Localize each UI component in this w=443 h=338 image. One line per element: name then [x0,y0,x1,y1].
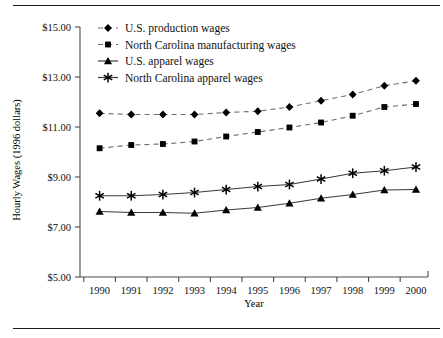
x-tick-label: 1991 [121,285,142,296]
marker-diamond [380,82,388,90]
x-axis-title: Year [244,298,264,309]
x-tick-label: 1997 [311,285,332,296]
y-tick-label: $13.00 [42,72,71,83]
marker-square [255,129,261,135]
x-tick-label: 1998 [342,285,363,296]
x-tick-label: 2000 [405,285,426,296]
x-tick-label: 1996 [279,285,300,296]
marker-square [413,101,419,107]
y-tick-labels: $5.00$7.00$9.00$11.00$13.00$15.00 [42,22,71,283]
y-tick-label: $5.00 [47,272,71,283]
marker-diamond [317,97,325,105]
series-lines [100,81,416,214]
marker-diamond [127,111,135,119]
legend-entry: U.S. production wages [98,22,230,35]
legend-label: North Carolina manufacturing wages [125,39,296,52]
legend-label: North Carolina apparel wages [125,72,263,85]
marker-diamond [412,77,420,85]
y-axis-title: Hourly Wages (1996 dollars) [11,99,23,221]
x-tick-label: 1995 [247,285,268,296]
legend-entry: U.S. apparel wages [98,55,214,68]
x-tick-marks [84,277,400,282]
marker-diamond [222,109,230,117]
marker-diamond [349,91,357,99]
marker-square [381,104,387,110]
chart-plot-area: $5.00$7.00$9.00$11.00$13.00$15.00 199019… [0,0,443,338]
marker-square-legend [105,42,111,48]
marker-square [192,139,198,145]
y-tick-label: $11.00 [43,122,72,133]
legend-entry: North Carolina manufacturing wages [98,39,296,52]
series-line [100,167,416,196]
legend-entry: North Carolina apparel wages [98,72,263,85]
marker-diamond [254,107,262,115]
x-tick-label: 1990 [89,285,110,296]
marker-diamond-legend [104,24,112,32]
x-tick-label: 1993 [184,285,205,296]
marker-square [223,134,229,140]
marker-square [160,141,166,147]
marker-square [287,125,293,131]
y-tick-label: $9.00 [47,172,71,183]
marker-diamond [286,103,294,111]
x-tick-label: 1994 [216,285,238,296]
chart-legend: U.S. production wagesNorth Carolina manu… [98,22,296,85]
marker-diamond [96,109,104,117]
legend-label: U.S. apparel wages [125,55,214,68]
marker-square [97,145,103,151]
x-tick-label: 1992 [152,285,173,296]
marker-square [350,113,356,119]
marker-diamond [191,111,199,119]
marker-square [318,120,324,126]
x-tick-label: 1999 [374,285,395,296]
legend-label: U.S. production wages [125,22,230,35]
x-tick-labels: 1990199119921993199419951996199719981999… [89,285,426,296]
marker-diamond [159,111,167,119]
y-tick-marks [75,27,80,277]
wage-chart-figure: $5.00$7.00$9.00$11.00$13.00$15.00 199019… [0,0,443,338]
y-tick-label: $15.00 [42,22,71,33]
y-tick-label: $7.00 [47,222,71,233]
marker-square [128,142,134,148]
